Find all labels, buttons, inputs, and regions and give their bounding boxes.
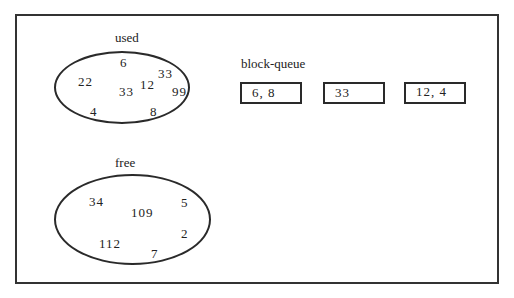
- block-queue-item: 6, 8: [240, 82, 302, 104]
- free-set-element: 109: [131, 205, 154, 221]
- used-set-element: 99: [172, 84, 187, 100]
- block-queue-item: 33: [323, 82, 385, 104]
- free-set-element: 112: [99, 236, 121, 252]
- used-set-element: 6: [120, 55, 128, 71]
- free-set-label: free: [115, 155, 135, 171]
- used-set-element: 8: [150, 104, 158, 120]
- used-set-element: 33: [158, 66, 173, 82]
- used-set-label: used: [115, 30, 139, 46]
- used-set-element: 4: [90, 104, 98, 120]
- block-queue-label: block-queue: [241, 56, 305, 72]
- used-set-element: 12: [140, 77, 155, 93]
- free-set-element: 2: [181, 226, 189, 242]
- free-set-element: 5: [181, 195, 189, 211]
- block-queue-item: 12, 4: [404, 82, 466, 104]
- used-set-element: 33: [119, 84, 134, 100]
- free-set-element: 34: [89, 194, 104, 210]
- free-set-element: 7: [151, 246, 159, 262]
- used-set-element: 22: [78, 74, 93, 90]
